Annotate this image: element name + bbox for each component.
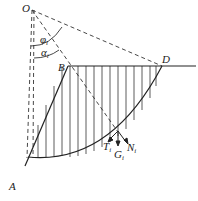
label-phi: φi xyxy=(40,33,48,47)
radius-to-slice xyxy=(32,10,118,132)
label-alpha: αi xyxy=(41,46,49,60)
label-d: D xyxy=(161,53,170,65)
slice-hatching xyxy=(38,66,156,157)
slope-face-ab xyxy=(25,66,68,166)
vertical-line-1 xyxy=(27,10,32,158)
label-g: Gi xyxy=(114,148,124,162)
slope-stability-diagram: O B D A φi αi Ti Ni Gi xyxy=(0,0,198,201)
label-a: A xyxy=(8,180,16,192)
label-b: B xyxy=(58,61,65,73)
label-t: Ti xyxy=(103,140,111,154)
label-o: O xyxy=(22,2,30,14)
vertical-line-2 xyxy=(33,10,34,158)
radius-to-d xyxy=(32,10,162,66)
label-n: Ni xyxy=(126,141,136,155)
force-arrows xyxy=(108,131,128,146)
